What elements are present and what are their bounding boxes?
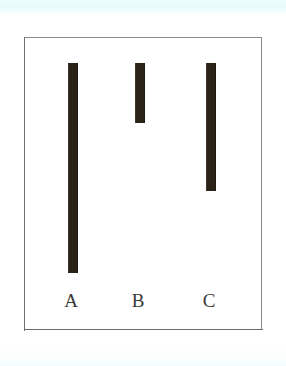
bar-a [68,63,78,273]
bar-label-b: B [123,291,153,310]
figure-frame [24,37,262,330]
scan-tint-top [0,0,286,18]
bar-c [206,63,216,191]
bar-label-a: A [56,291,86,310]
plot-area [25,38,261,329]
scan-tint-bottom [0,346,286,366]
bar-label-c: C [194,291,224,310]
bar-b [135,63,145,123]
